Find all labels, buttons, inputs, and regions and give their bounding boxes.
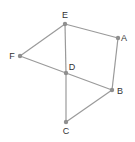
edge-f-d xyxy=(20,56,66,73)
edge-b-c xyxy=(66,90,112,122)
edge-a-b xyxy=(112,38,118,90)
node-label-d: D xyxy=(69,62,76,72)
node-e xyxy=(63,22,67,26)
node-label-e: E xyxy=(62,10,68,20)
nodes-group xyxy=(18,22,120,124)
node-a xyxy=(116,36,120,40)
node-label-a: A xyxy=(121,33,127,43)
node-d xyxy=(64,71,68,75)
node-f xyxy=(18,54,22,58)
node-b xyxy=(110,88,114,92)
edge-e-d xyxy=(65,24,66,73)
node-label-f: F xyxy=(9,51,15,61)
edges-group xyxy=(20,24,118,122)
edge-e-a xyxy=(65,24,118,38)
edge-d-b xyxy=(66,73,112,90)
graph-diagram: EAFDBC xyxy=(0,0,135,142)
edge-e-f xyxy=(20,24,65,56)
node-label-b: B xyxy=(117,86,123,96)
node-label-c: C xyxy=(63,126,70,136)
node-c xyxy=(64,120,68,124)
